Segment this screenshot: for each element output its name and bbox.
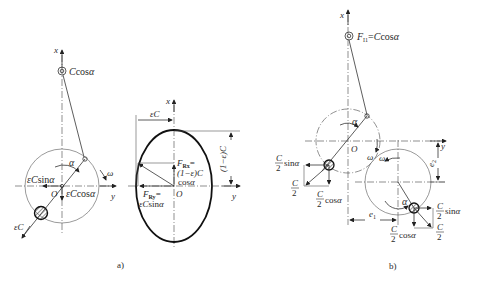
b-upper-omega-label: ω <box>367 152 373 162</box>
crank-force-diagram: x Ccosα y εC O α ω εCsinα εCcosα <box>0 0 478 287</box>
b-lower-omega-label: ω <box>379 153 385 163</box>
b-upper-cos-den: 2 <box>317 199 322 209</box>
frx-value-2: cosα <box>178 177 195 187</box>
b-upper-res-den: 2 <box>292 188 297 198</box>
b-upper-cos-num: C <box>317 189 324 199</box>
b-weight-ring-outer <box>345 32 353 40</box>
y-axis-label: y <box>110 191 115 201</box>
b-lower-sin-den: 2 <box>437 211 442 221</box>
horiz-force-label: εCsinα <box>27 174 55 185</box>
b-upper-sin-rest: sinα <box>284 158 300 168</box>
b-upper-angle-label: α <box>352 116 358 127</box>
omega-label: ω <box>107 168 113 178</box>
caption-b: b) <box>389 261 397 271</box>
omega-arrow <box>100 170 106 180</box>
b-upper-sin-den: 2 <box>276 163 281 173</box>
b-lower-cos-num: C <box>391 224 398 234</box>
b-lower-res-den: 2 <box>437 232 442 242</box>
b-y-label: y <box>440 141 445 151</box>
panel-a-crank: x Ccosα y εC O α ω εCsinα εCcosα <box>14 45 116 238</box>
b-upper-sin-num: C <box>276 153 283 163</box>
connecting-rod <box>63 75 84 157</box>
resultant-vector <box>139 164 174 186</box>
b-lower-res-arrow <box>414 208 431 227</box>
b-lower-cos-rest: cosα <box>399 230 416 240</box>
b-e2-label: e2 <box>426 160 437 167</box>
b-lower-cos-den: 2 <box>391 234 396 244</box>
caption-a: a) <box>117 260 124 270</box>
origin-label: O <box>51 189 58 199</box>
angle-label: α <box>69 157 75 168</box>
ellipse-y-label: y <box>231 191 236 201</box>
counterweight <box>35 207 48 220</box>
panel-a-ellipse: x y εC (1−ε)C FRx= (1−ε)C cosα O FRy= εC… <box>128 96 240 248</box>
b-upper-res-arrow <box>306 165 329 185</box>
b-upper-cos-rest: cosα <box>325 195 342 205</box>
ellipse-x-label: x <box>165 96 170 106</box>
ellipse-origin-label: O <box>176 189 183 199</box>
b-lower-sin-rest: sinα <box>445 206 461 216</box>
width-dim-label: εC <box>150 109 161 119</box>
resultant-label: εC <box>14 222 25 232</box>
panel-b-twin-crank: x FI1=Ccosα y O α ω C 2 sinα C 2 C <box>275 10 461 244</box>
top-weight-label: Ccosα <box>69 66 95 77</box>
b-connecting-rod <box>349 40 367 115</box>
b-upper-res-num: C <box>292 178 299 188</box>
fry-value: εCsinα <box>139 199 164 209</box>
b-lower-sin-num: C <box>437 201 444 211</box>
b-origin-label: O <box>351 144 358 154</box>
b-upper-omega-arrow <box>376 139 377 152</box>
b-e1-label: e1 <box>369 209 376 220</box>
x-axis-label: x <box>53 45 58 55</box>
height-dim-label: (1−ε)C <box>218 145 228 172</box>
b-top-label: FI1=Ccosα <box>356 31 400 43</box>
b-lower-res-num: C <box>437 222 444 232</box>
vert-force-label: εCcosα <box>66 188 96 199</box>
b-lower-angle-label: α <box>402 196 408 207</box>
b-x-label: x <box>339 10 344 20</box>
